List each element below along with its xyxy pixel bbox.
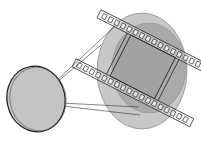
lens-image-circle-diagram <box>0 0 201 142</box>
lens <box>1 61 72 138</box>
